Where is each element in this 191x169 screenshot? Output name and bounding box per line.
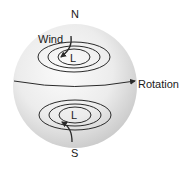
northern-low-label: L	[70, 52, 76, 64]
southern-low-label: L	[71, 109, 77, 121]
wind-label: Wind	[38, 33, 63, 45]
rotation-label: Rotation	[138, 78, 179, 90]
coriolis-diagram: N L Wind Rotation L S	[0, 0, 191, 169]
north-pole-label: N	[71, 8, 79, 20]
south-pole-label: S	[71, 147, 78, 159]
